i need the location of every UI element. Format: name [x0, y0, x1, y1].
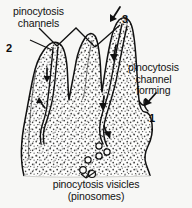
- leader-line-icon-channels-left: [39, 28, 57, 46]
- label-pinocytosis-channel-forming: pinocytosis channel forming: [128, 62, 179, 97]
- vesicle: [104, 149, 110, 155]
- label-vesicles-line1: pinocytosis visicles: [26, 179, 166, 191]
- vesicle: [80, 167, 87, 174]
- label-pinocytosis-vesicles: pinocytosis visicles (pinosomes): [26, 179, 166, 202]
- label-pinocytosis-channels: pinocytosis channels: [13, 6, 64, 29]
- callout-number-3: 3: [122, 13, 128, 25]
- callout-number-1: 1: [149, 112, 155, 124]
- callout-number-2: 2: [6, 42, 12, 54]
- label-vesicles-line2: (pinosomes): [26, 191, 166, 203]
- label-forming-line3: forming: [128, 85, 179, 97]
- vesicle: [96, 143, 102, 149]
- label-pinocytosis-channels-line1: pinocytosis: [13, 6, 64, 18]
- pinocytosis-illustration: [0, 0, 192, 208]
- label-forming-line1: pinocytosis: [128, 62, 179, 74]
- diagram-canvas: pinocytosis channels pinocytosis channel…: [0, 0, 192, 208]
- label-pinocytosis-channels-line2: channels: [13, 18, 64, 30]
- vesicle: [85, 157, 91, 163]
- vesicle: [96, 153, 102, 159]
